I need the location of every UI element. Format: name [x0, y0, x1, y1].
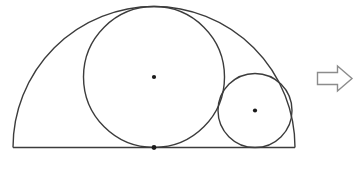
small-circle-center-dot [253, 108, 257, 112]
figure-canvas [0, 0, 359, 175]
large-circle-center-dot [152, 75, 156, 79]
geometry-diagram [0, 0, 359, 175]
semicircle-center-dot [152, 145, 157, 150]
right-arrow-icon [318, 66, 353, 91]
